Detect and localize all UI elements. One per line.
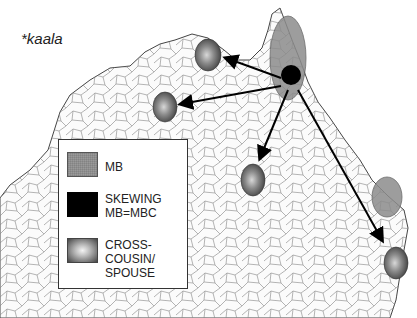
skewing-swatch xyxy=(67,192,98,217)
cross-cousin-oval xyxy=(384,247,408,279)
map-title: *kaala xyxy=(21,30,63,47)
legend: MB SKEWING MB=MBC CROSS- COUSIN/ SPOUSE xyxy=(58,139,188,289)
legend-label: CROSS- COUSIN/ SPOUSE xyxy=(105,238,155,280)
legend-item-mb: MB xyxy=(67,152,123,177)
cross-cousin-swatch xyxy=(67,238,98,263)
cross-cousin-oval xyxy=(153,92,177,122)
legend-label: MB xyxy=(105,160,123,174)
legend-item-skewing: SKEWING MB=MBC xyxy=(67,192,162,220)
skewing-origin-marker xyxy=(281,65,301,85)
legend-label: SKEWING MB=MBC xyxy=(105,192,162,220)
cross-cousin-oval xyxy=(195,39,221,71)
cross-cousin-oval xyxy=(241,164,265,196)
mb-swatch xyxy=(67,152,98,177)
mb-area-east xyxy=(372,177,402,217)
legend-item-cross-cousin: CROSS- COUSIN/ SPOUSE xyxy=(67,238,155,280)
